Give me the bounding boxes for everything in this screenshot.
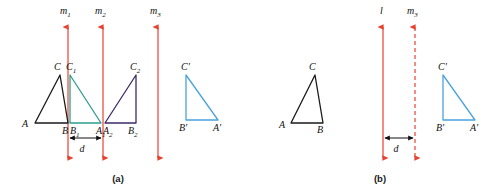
vertex-label: C′ [181, 61, 191, 72]
label-subscript: 3 [413, 11, 418, 19]
vertex-label: C [54, 61, 61, 72]
vertex-label: A [21, 118, 29, 129]
label-subscript: 2 [137, 67, 141, 75]
mirror-line-label-l: l [380, 5, 383, 16]
vertex-label: A′ [212, 122, 222, 133]
vertex-label: C [309, 61, 316, 72]
label-subscript: 2 [134, 131, 138, 139]
vertex-label: B [62, 125, 68, 136]
label-subscript: 1 [67, 11, 71, 19]
label-subscript: 1 [76, 131, 80, 139]
label-subscript: 1 [73, 67, 77, 75]
panel-caption: (a) [112, 173, 124, 184]
panel-caption: (b) [374, 173, 386, 184]
vertex-label: B′ [436, 122, 445, 133]
label-subscript: 3 [156, 11, 161, 19]
vertex-label: B′ [179, 122, 188, 133]
label-subscript: 2 [109, 131, 113, 139]
geometry-figure: m1m2m3ABCB1A1C1A2B2C2B′A′C′d(a)lm3ABCB′A… [0, 0, 501, 195]
vertex-label: C′ [438, 61, 448, 72]
vertex-label: A [278, 119, 286, 130]
vertex-label: A′ [469, 122, 479, 133]
figure-canvas: m1m2m3ABCB1A1C1A2B2C2B′A′C′d(a)lm3ABCB′A… [0, 0, 501, 195]
figure-background [0, 0, 501, 195]
label-subscript: 2 [102, 11, 106, 19]
vertex-label: B [317, 124, 323, 135]
